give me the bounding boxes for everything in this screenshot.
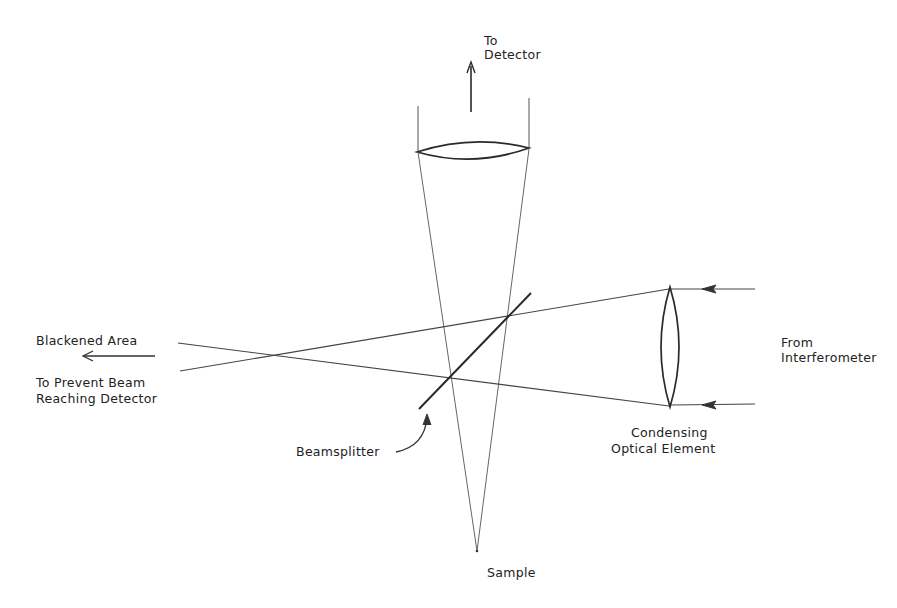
condensing-label-line1: Condensing [631,424,708,441]
beamsplitter-label: Beamsplitter [296,443,380,460]
optical-diagram [0,0,897,608]
prevent-beam-label: To Prevent Beam [36,374,146,391]
condensing-label-line2: Optical Element [611,440,715,457]
condensing-lens [661,287,679,407]
from-interferometer-label-line2: Interferometer [781,349,877,366]
to-detector-arrow-icon [467,62,475,112]
sample-label: Sample [487,564,536,581]
input-beams [671,289,755,405]
beamsplitter [419,293,531,409]
input-beam-arrowheads-icon [702,285,716,409]
sample-cone-lines [418,149,529,551]
to-detector-label-line2: Detector [484,46,541,63]
sample-point [476,550,479,553]
collection-lens [417,142,529,159]
beamsplitter-pointer-arrow-icon [396,414,431,452]
blackened-area-arrow-icon [83,351,155,361]
blackened-area-label: Blackened Area [36,332,138,349]
reaching-detector-label: Reaching Detector [36,390,157,407]
collection-tube-lines [418,98,529,151]
beam-lines [178,289,669,406]
